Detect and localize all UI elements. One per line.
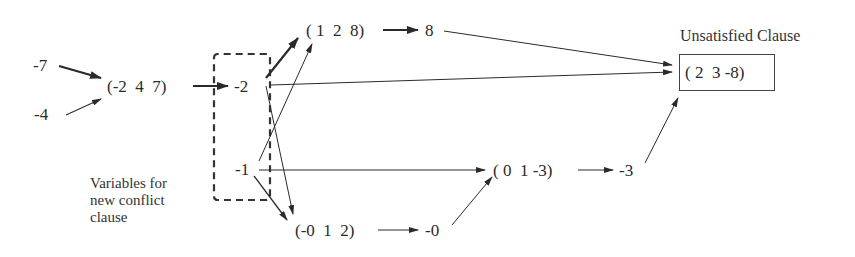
node-pos8: 8 (425, 22, 434, 39)
node-neg0: -0 (425, 222, 439, 239)
edge-p8-c238 (444, 31, 672, 65)
annotation-line-1: Variables for (90, 175, 167, 192)
unsatisfied-clause-box: ( 2 3 -8) (679, 54, 775, 91)
node-neg3: -3 (619, 162, 633, 179)
clause-2-3-neg8: ( 2 3 -8) (685, 64, 744, 81)
unsatisfied-clause-label: Unsatisfied Clause (680, 27, 800, 44)
node-neg4: -4 (34, 106, 48, 123)
edge-n4-c247 (66, 99, 101, 115)
edge-n0-c013 (452, 177, 492, 225)
implication-graph-diagram: -7 -4 (-2 4 7) -2 -1 ( 1 2 8) 8 (-0 1 2)… (0, 0, 855, 257)
edge-n1-c128 (259, 44, 312, 161)
clause-0-1-neg3: ( 0 1 -3) (493, 162, 552, 179)
node-neg7: -7 (33, 57, 47, 74)
edge-n2-c238 (271, 72, 672, 85)
node-neg1: -1 (235, 161, 249, 178)
edge-n7-c247 (59, 66, 101, 78)
clause-1-2-8: ( 1 2 8) (306, 22, 364, 39)
annotation-line-2: new conflict (90, 192, 167, 209)
clause-neg0-1-2: (-0 1 2) (295, 222, 354, 239)
edge-n3-c238 (645, 98, 678, 163)
annotation-line-3: clause (90, 209, 167, 226)
conflict-variables-annotation: Variables for new conflict clause (90, 175, 167, 226)
clause-neg2-4-7: (-2 4 7) (107, 78, 166, 95)
node-neg2: -2 (234, 78, 248, 95)
